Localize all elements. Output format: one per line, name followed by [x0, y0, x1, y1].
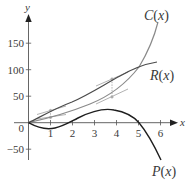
y-tick-label-150: 150: [8, 37, 25, 49]
x-tick-label-6: 6: [158, 127, 164, 139]
x-tick-label-2: 2: [70, 127, 76, 139]
x-tick-label-4: 4: [114, 127, 120, 139]
origin-label: 0: [19, 122, 25, 134]
x-tick-label-5: 5: [136, 127, 142, 139]
curve-label-R: R(x): [149, 68, 174, 84]
curve-C: [29, 22, 159, 123]
curve-label-P: P(x): [151, 164, 176, 180]
curve-label-C: C(x): [144, 8, 169, 24]
x-axis-label: x: [179, 116, 185, 128]
y-axis-arrow-icon: [25, 14, 31, 22]
x-tick-label-3: 3: [92, 127, 98, 139]
y-tick-label-100: 100: [8, 64, 25, 76]
y-tick-label-neg50: −50: [7, 143, 25, 155]
x-axis-arrow-icon: [170, 120, 178, 126]
y-tick-label-50: 50: [13, 90, 25, 102]
profit-cost-revenue-chart: 1 2 3 4 5 6 150 100 50 −50 0 x y C(x) R(…: [0, 0, 186, 185]
y-axis-label: y: [24, 1, 30, 13]
curve-R: [29, 62, 158, 123]
